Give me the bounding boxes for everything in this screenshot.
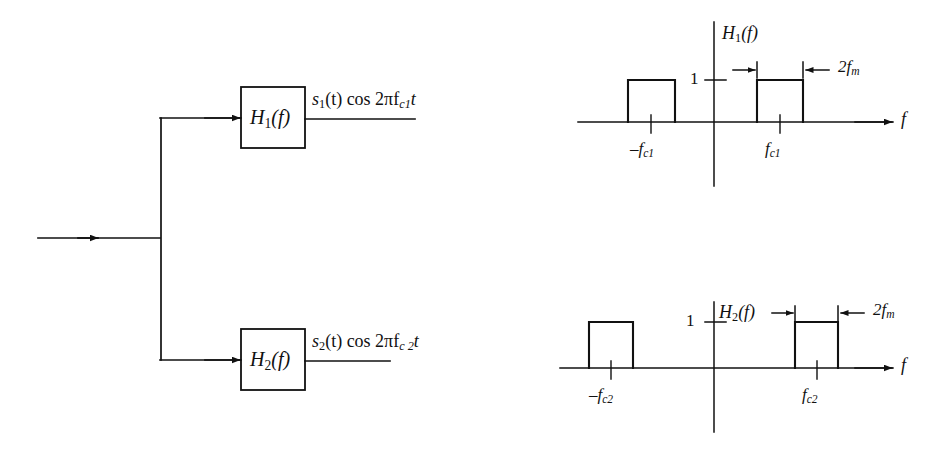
h1-axis-label: f bbox=[901, 110, 906, 128]
filter-block-h1-label: H1(f) bbox=[250, 107, 290, 130]
h1-amplitude-label: 1 bbox=[690, 70, 699, 87]
figure-root: H1(f) s1(t) cos 2πfc1t H2(f) s2(t) cos 2… bbox=[0, 0, 934, 449]
h2-tick-label-negative: –fc2 bbox=[589, 386, 613, 406]
h1-plot-title: H1(f) bbox=[722, 24, 758, 45]
output-expression-h2: s2(t) cos 2πfc 2t bbox=[312, 332, 419, 353]
h2-axis-label: f bbox=[901, 356, 906, 374]
diagram-vector-layer bbox=[0, 0, 934, 449]
h2-bandwidth-label: 2fm bbox=[873, 301, 895, 321]
h2-amplitude-label: 1 bbox=[686, 312, 695, 329]
h1-tick-label-negative: –fc1 bbox=[630, 140, 654, 160]
h2-plot-title: H2(f) bbox=[719, 303, 755, 324]
h2-tick-label-positive: fc2 bbox=[802, 386, 818, 406]
h1-bandwidth-label: 2fm bbox=[838, 58, 860, 78]
h1-tick-label-positive: fc1 bbox=[765, 140, 781, 160]
filter-block-h2-label: H2(f) bbox=[250, 349, 290, 372]
output-expression-h1: s1(t) cos 2πfc1t bbox=[312, 90, 416, 111]
